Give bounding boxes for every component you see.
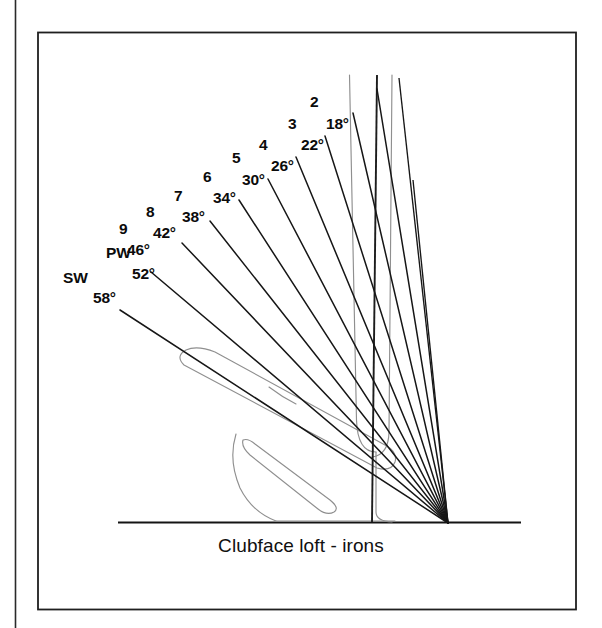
loft-line-3: [353, 113, 448, 523]
angle-label-26: 26°: [271, 158, 294, 174]
club-outline-drawing: [180, 75, 396, 522]
angle-label-18: 18°: [326, 116, 349, 132]
club-label-6: 6: [203, 169, 211, 185]
angle-label-22: 22°: [301, 137, 324, 153]
loft-reference-lines: [399, 78, 448, 523]
club-label-4: 4: [259, 137, 267, 153]
loft-line-9: [182, 243, 448, 523]
loft-line-6: [268, 179, 448, 523]
club-label-2: 2: [310, 94, 318, 110]
club-label-5: 5: [232, 150, 240, 166]
club-label-7: 7: [174, 188, 182, 204]
figure-caption: Clubface loft - irons: [0, 535, 602, 557]
loft-line-4: [325, 136, 448, 523]
loft-reference-line-outer: [413, 180, 448, 523]
angle-label-58: 58°: [93, 290, 116, 306]
club-label-8: 8: [146, 204, 154, 220]
club-label-9: 9: [119, 221, 127, 237]
loft-line-pw: [151, 272, 448, 523]
angle-label-52: 52°: [132, 266, 155, 282]
loft-line-7: [239, 200, 448, 523]
angle-label-38: 38°: [182, 209, 205, 225]
loft-fan-lines: [120, 89, 448, 523]
angle-label-42: 42°: [153, 225, 176, 241]
loft-line-2: [377, 89, 448, 523]
club-label-sw: SW: [63, 270, 88, 286]
clubface-loft-diagram: [0, 0, 602, 628]
club-label-3: 3: [288, 116, 296, 132]
figure-page: 2 18° 3 22° 4 26° 5 30° 6 34° 7 38° 8 42…: [0, 0, 602, 628]
loft-line-sw: [120, 310, 448, 523]
angle-label-30: 30°: [242, 172, 265, 188]
club-label-pw: PW: [106, 245, 131, 261]
angle-label-34: 34°: [213, 190, 236, 206]
